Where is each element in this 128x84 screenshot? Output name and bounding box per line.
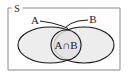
- venn-diagram-canvas: S A B A∩B: [0, 0, 128, 84]
- intersection-label: A∩B: [54, 39, 77, 51]
- set-b-label: B: [89, 13, 96, 25]
- set-a-label: A: [31, 14, 39, 26]
- venn-diagram-figure: S A B A∩B: [0, 0, 128, 84]
- universal-set-label: S: [14, 3, 20, 14]
- set-b-leader-line: [66, 20, 88, 27]
